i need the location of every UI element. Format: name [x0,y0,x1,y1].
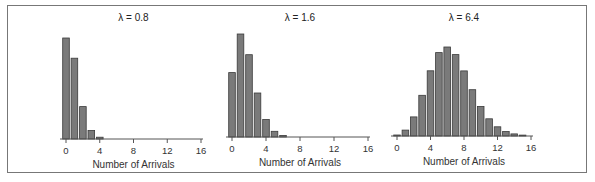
bar [410,117,417,136]
x-tick-label: 16 [526,142,537,153]
bar [80,107,87,139]
bar [469,90,476,136]
x-tick-label: 4 [428,142,433,153]
x-axis-label: Number of Arrivals [259,157,341,168]
bar [444,47,451,136]
bar [452,55,459,136]
x-tick-label: 8 [297,143,302,154]
x-tick-label: 8 [461,142,466,153]
bar [229,73,236,137]
x-tick-label: 16 [196,145,207,156]
x-axis-label: Number of Arrivals [92,159,174,170]
bar [71,58,78,139]
bar [419,95,426,136]
bar [486,119,493,136]
bar [263,120,270,138]
bar [254,93,261,137]
bar [436,53,443,136]
x-tick-label: 12 [492,142,503,153]
x-tick-label: 8 [131,145,136,156]
bar [477,106,484,136]
chart-title: λ = 0.8 [118,12,149,23]
bar [427,71,434,136]
bar [271,131,278,137]
chart-title: λ = 1.6 [285,12,316,23]
bar [461,71,468,136]
x-tick-label: 12 [162,145,173,156]
bar [494,127,501,136]
bar [402,130,409,136]
x-tick-label: 0 [229,143,234,154]
bar [88,131,95,140]
poisson-charts: λ = 0.80481216Number of Arrivalsλ = 1.60… [0,0,595,182]
x-tick-label: 0 [63,145,68,156]
x-tick-label: 4 [263,143,268,154]
x-tick-label: 0 [394,142,399,153]
bar [63,38,70,139]
x-tick-label: 4 [97,145,102,156]
x-tick-label: 12 [329,143,340,154]
bar [246,55,253,137]
x-axis-label: Number of Arrivals [423,156,505,167]
bar [237,34,244,137]
x-tick-label: 16 [363,143,374,154]
bar [503,132,510,137]
chart-title: λ = 6.4 [449,12,480,23]
